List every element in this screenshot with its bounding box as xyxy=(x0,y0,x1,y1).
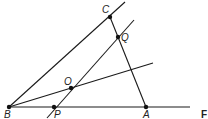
label-a: A xyxy=(142,109,150,119)
line-ca xyxy=(110,17,146,107)
label-f: F xyxy=(201,109,207,119)
line-bc xyxy=(9,2,125,107)
geometry-diagram: B P A C Q O F xyxy=(0,0,208,119)
label-p: P xyxy=(54,109,61,119)
label-c: C xyxy=(102,4,110,15)
label-q: Q xyxy=(121,32,129,43)
point-q xyxy=(116,35,120,39)
line-bo xyxy=(9,63,153,107)
label-b: B xyxy=(4,109,11,119)
point-c xyxy=(108,15,112,19)
label-o: O xyxy=(64,76,72,87)
